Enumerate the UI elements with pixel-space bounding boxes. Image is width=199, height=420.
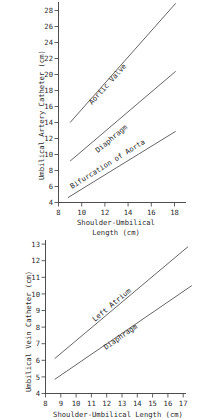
upper-y-tick-label: 4 bbox=[49, 198, 53, 207]
series-line-bifurcation-of-aorta bbox=[68, 131, 176, 197]
series-line-diaphragm-upper bbox=[70, 71, 176, 161]
upper-y-ticks bbox=[55, 11, 59, 203]
upper-y-tick-label: 26 bbox=[44, 22, 53, 31]
upper-x-tick-label: 10 bbox=[77, 208, 86, 217]
lower-y-tick-label: 7 bbox=[36, 339, 40, 348]
lower-y-ticks bbox=[42, 244, 46, 393]
upper-x-tick-labels: 8 10 12 14 16 18 bbox=[56, 208, 178, 217]
upper-x-tick-label: 16 bbox=[147, 208, 156, 217]
lower-y-axis-title: Umbilical Vein Catheter (cm) bbox=[24, 271, 33, 392]
lower-x-ticks bbox=[46, 394, 184, 398]
lower-x-tick-labels: 8 9 10 11 12 13 14 15 16 17 bbox=[43, 399, 187, 408]
upper-x-tick-label: 14 bbox=[124, 208, 133, 217]
lower-y-tick-label: 6 bbox=[36, 356, 40, 365]
lower-x-tick-label: 9 bbox=[59, 399, 63, 408]
lower-x-tick-label: 15 bbox=[148, 399, 157, 408]
lower-x-tick-label: 14 bbox=[133, 399, 142, 408]
lower-y-tick-label: 13 bbox=[31, 240, 40, 249]
upper-x-axis-title-line1: Shoulder-Umbilical bbox=[77, 218, 155, 227]
curve-label-diaphragm-lower: Diaphragm bbox=[102, 322, 139, 352]
charts-svg: 28 26 24 22 20 18 16 14 12 10 8 6 4 8 10 bbox=[0, 0, 199, 420]
series-line-left-atrium bbox=[55, 247, 188, 359]
curve-label-left-atrium: Left Atrium bbox=[91, 286, 133, 323]
upper-x-ticks bbox=[59, 203, 175, 207]
lower-x-tick-label: 11 bbox=[87, 399, 96, 408]
lower-x-tick-label: 8 bbox=[43, 399, 47, 408]
curve-label-aortic-valve: Aortic Valve bbox=[87, 62, 128, 107]
lower-x-axis-title: Shoulder-Umbilical Length (cm) bbox=[53, 410, 183, 419]
upper-x-tick-label: 8 bbox=[56, 208, 60, 217]
upper-x-tick-label: 18 bbox=[170, 208, 179, 217]
upper-y-tick-label: 8 bbox=[49, 166, 53, 175]
lower-y-tick-label: 5 bbox=[36, 373, 40, 382]
upper-y-axis-title: Umbilical Artery Catheter (cm) bbox=[37, 50, 46, 180]
lower-y-tick-label: 9 bbox=[36, 306, 40, 315]
upper-x-tick-label: 12 bbox=[101, 208, 110, 217]
upper-y-tick-label: 6 bbox=[49, 182, 53, 191]
lower-y-tick-label: 12 bbox=[31, 256, 40, 265]
lower-x-tick-label: 13 bbox=[118, 399, 127, 408]
upper-y-tick-label: 28 bbox=[44, 6, 53, 15]
lower-y-tick-label: 8 bbox=[36, 323, 40, 332]
series-line-aortic-valve bbox=[70, 3, 176, 122]
upper-x-axis-title-line2: Length (cm) bbox=[92, 228, 140, 237]
lower-x-tick-label: 10 bbox=[72, 399, 81, 408]
figure-panel: 28 26 24 22 20 18 16 14 12 10 8 6 4 8 10 bbox=[0, 0, 199, 420]
lower-x-tick-label: 12 bbox=[102, 399, 111, 408]
lower-x-tick-label: 17 bbox=[179, 399, 188, 408]
lower-y-tick-label: 4 bbox=[36, 389, 40, 398]
upper-y-tick-label: 24 bbox=[44, 38, 53, 47]
lower-x-tick-label: 16 bbox=[164, 399, 173, 408]
upper-chart: 28 26 24 22 20 18 16 14 12 10 8 6 4 8 10 bbox=[37, 2, 186, 237]
lower-chart: 13 12 11 10 9 8 7 6 5 4 8 9 10 bbox=[24, 240, 192, 419]
